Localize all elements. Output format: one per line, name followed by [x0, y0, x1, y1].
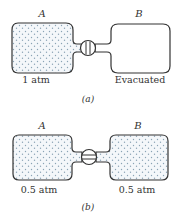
container-a-label: A	[37, 120, 45, 131]
gas-expansion-diagram: A B 1 atm Evacuated (a) A B 0.5 atm 0.5 …	[0, 0, 179, 221]
container-a-vessel	[13, 135, 82, 180]
container-b-pressure: 0.5 atm	[119, 184, 156, 195]
caption-a: (a)	[82, 94, 95, 104]
container-b-label: B	[134, 8, 142, 19]
panel-b: A B 0.5 atm 0.5 atm (b)	[13, 120, 168, 212]
container-a-pressure: 1 atm	[22, 74, 50, 85]
container-b-vessel	[96, 135, 168, 180]
caption-b: (b)	[82, 202, 95, 212]
stopcock-valve-closed	[81, 41, 96, 56]
container-a-vessel	[12, 23, 82, 73]
container-b-vessel	[95, 24, 170, 73]
container-b-label: B	[133, 120, 141, 131]
stopcock-valve-open	[82, 150, 97, 165]
container-a-pressure: 0.5 atm	[21, 184, 58, 195]
container-a-label: A	[37, 8, 45, 19]
container-b-pressure: Evacuated	[115, 74, 166, 85]
panel-a: A B 1 atm Evacuated (a)	[12, 8, 170, 104]
